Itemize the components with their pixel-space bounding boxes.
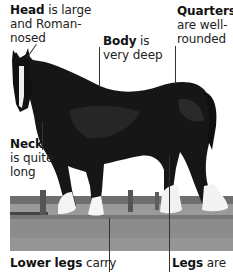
annotation-term: Body bbox=[103, 34, 136, 48]
annotation-legs: Legs are bbox=[172, 256, 226, 270]
leader-line-body bbox=[99, 47, 100, 87]
annotation-term: Legs bbox=[172, 256, 203, 270]
leader-line-quarters bbox=[175, 46, 176, 84]
annotation-lower-legs: Lower legs carry bbox=[10, 256, 116, 270]
annotation-term: Head bbox=[10, 3, 44, 17]
annotation-body: Body is very deep bbox=[103, 34, 162, 62]
leader-line-legs bbox=[169, 156, 170, 272]
annotation-term: Quarters bbox=[177, 4, 233, 18]
annotation-term: Neck bbox=[10, 137, 43, 151]
annotation-neck: Neck is quite long bbox=[10, 137, 53, 179]
annotation-term: Lower legs bbox=[10, 256, 82, 270]
grass bbox=[10, 215, 233, 251]
annotation-quarters: Quarters are well- rounded bbox=[177, 4, 233, 46]
annotation-head: Head is large and Roman- nosed bbox=[10, 3, 91, 45]
